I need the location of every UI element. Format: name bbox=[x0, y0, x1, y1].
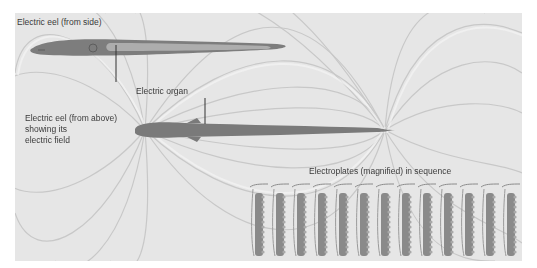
label-eel-side: Electric eel (from side) bbox=[17, 17, 102, 28]
label-electroplates: Electroplates (magnified) in sequence bbox=[309, 166, 451, 177]
eel-side-illustration bbox=[30, 39, 285, 55]
label-eel-above-3: electric field bbox=[25, 135, 70, 146]
label-eel-above-1: Electric eel (from above) bbox=[25, 113, 117, 124]
electric-eel-figure: Electric eel (from side) Electric organ … bbox=[15, 13, 522, 261]
electric-field-lines bbox=[15, 13, 522, 261]
eel-above-illustration bbox=[135, 118, 395, 142]
label-eel-above-2: showing its bbox=[25, 124, 67, 135]
label-electric-organ: Electric organ bbox=[136, 86, 188, 97]
